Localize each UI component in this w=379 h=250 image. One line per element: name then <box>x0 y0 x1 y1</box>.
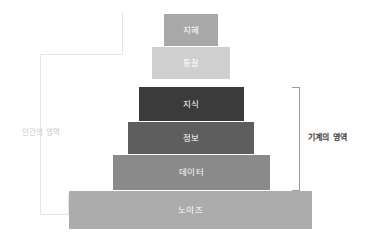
human-domain-bracket-top-riser <box>122 12 123 55</box>
machine-domain-bracket-spine <box>299 87 300 191</box>
machine-domain-label: 기계의 영역 <box>308 131 347 142</box>
pyramid-layer-2: 통찰 <box>152 47 230 79</box>
pyramid-layer-5: 데이터 <box>113 155 270 190</box>
human-domain-label: 인간의 영역 <box>8 126 74 137</box>
machine-domain-bracket-top-arm <box>292 87 300 88</box>
pyramid-layer-label: 데이터 <box>179 168 204 177</box>
pyramid-layer-label: 통찰 <box>183 59 200 68</box>
pyramid-layer-6: 노이즈 <box>69 191 312 229</box>
pyramid-layer-label: 노이즈 <box>178 206 203 215</box>
dikw-pyramid-diagram: 인간의 영역 지혜통찰지식정보데이터노이즈 기계의 영역 <box>0 0 379 250</box>
human-domain-bracket-bottom-arm <box>40 214 69 215</box>
machine-domain-bracket <box>292 87 300 191</box>
pyramid-layer-label: 정보 <box>183 134 200 143</box>
pyramid-layer-1: 지혜 <box>164 14 218 46</box>
pyramid-layer-label: 지식 <box>183 100 200 109</box>
pyramid-layer-4: 정보 <box>128 122 254 154</box>
human-domain-bracket-top-arm <box>40 54 123 55</box>
pyramid-layer-3: 지식 <box>139 87 244 121</box>
human-domain-bracket <box>40 12 123 215</box>
pyramid-layer-label: 지혜 <box>183 26 200 35</box>
